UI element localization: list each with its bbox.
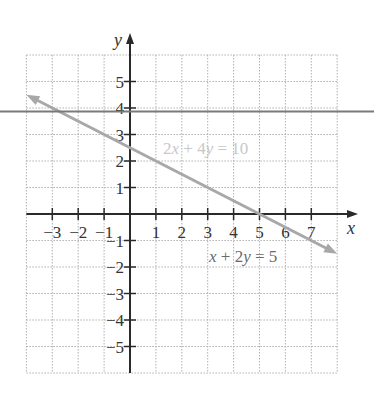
y-tick-label: 2: [116, 152, 125, 171]
equation-label-x-2y-5: x + 2y = 5: [208, 247, 277, 266]
x-tick-label: 3: [203, 223, 212, 242]
x-axis-label: x: [346, 218, 355, 238]
y-tick-label: 5: [116, 73, 125, 92]
y-tick-label: −4: [106, 311, 125, 330]
x-tick-label: −2: [69, 223, 87, 242]
y-axis-label: y: [112, 30, 122, 50]
coordinate-plane: −3−2−1123456754321−1−2−3−4−5 x y 2x + 4y…: [0, 0, 374, 405]
x-tick-label: 2: [178, 223, 187, 242]
x-axis-arrow-icon: [347, 210, 358, 218]
line-arrow-left-icon: [26, 95, 40, 105]
y-tick-label: −3: [106, 285, 124, 304]
y-tick-label: −5: [106, 338, 124, 357]
x-tick-label: 4: [229, 223, 238, 242]
line-arrow-right-icon: [323, 243, 337, 253]
y-tick-label: −1: [106, 232, 124, 251]
y-axis-arrow-icon: [126, 33, 134, 44]
x-tick-label: 1: [152, 223, 161, 242]
y-tick-label: 1: [116, 179, 125, 198]
axes: [26, 33, 358, 373]
x-tick-label: −3: [43, 223, 61, 242]
x-tick-label: 5: [255, 223, 264, 242]
y-tick-label: 4: [116, 99, 125, 118]
equation-label-2x-4y-10: 2x + 4y = 10: [163, 139, 248, 158]
y-tick-label: −2: [106, 258, 124, 277]
